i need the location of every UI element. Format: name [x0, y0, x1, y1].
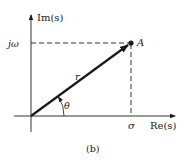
real-component-label: σ — [128, 120, 136, 131]
y-axis-label: Im(s) — [37, 12, 63, 23]
imag-component-label: jω — [6, 38, 19, 49]
point-a-label: A — [136, 37, 144, 48]
complex-plane-diagram: Im(s) jω A r θ σ Re(s) (b) — [0, 0, 185, 164]
point-a-dot — [128, 40, 133, 45]
x-axis-label: Re(s) — [150, 120, 176, 131]
angle-label: θ — [64, 100, 70, 111]
figure-caption: (b) — [86, 143, 100, 154]
